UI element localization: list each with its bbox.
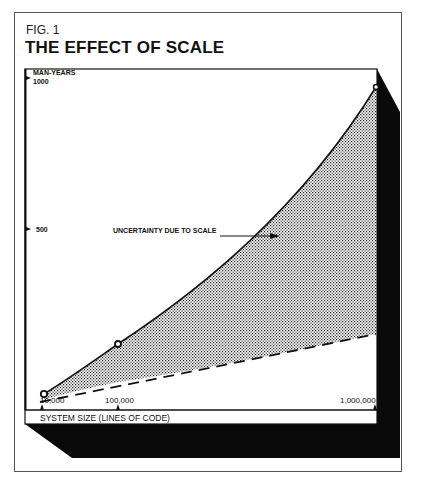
x-tick-label-100k: 100,000 bbox=[105, 396, 134, 405]
x-tick-label-1m: 1,000,000 bbox=[340, 396, 376, 405]
y-tick-label-500: 500 bbox=[36, 226, 48, 233]
data-point-100k bbox=[115, 341, 121, 347]
x-tick-label-10k: 10,000 bbox=[40, 396, 65, 405]
x-axis-title: SYSTEM SIZE (LINES OF CODE) bbox=[40, 413, 170, 423]
chart: MAN-YEARS 1000 500 UNCERTAINTY DUE TO SC… bbox=[0, 0, 423, 487]
annotation-label: UNCERTAINTY DUE TO SCALE bbox=[113, 227, 217, 234]
y-axis-title: MAN-YEARS bbox=[33, 69, 76, 76]
data-point-1m bbox=[374, 85, 379, 90]
y-tick-label-1000: 1000 bbox=[33, 78, 49, 85]
